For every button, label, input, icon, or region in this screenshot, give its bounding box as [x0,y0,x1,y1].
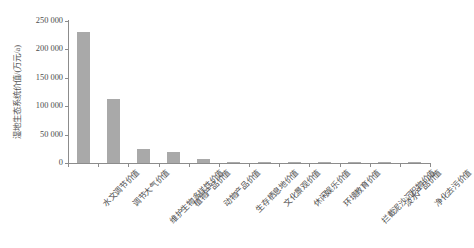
x-tick-mark [128,164,129,168]
y-tick-50000: 50 000 [0,135,68,136]
x-tick-mark [98,164,99,168]
y-tick-200000: 200 000 [0,49,68,50]
bar [227,162,240,163]
plot-area [68,21,430,163]
y-tick-label: 150 000 [36,72,63,83]
bar [197,159,210,163]
x-tick-mark [309,164,310,168]
x-tick-mark [400,164,401,168]
x-tick-mark [340,164,341,168]
y-tick-0: 0 [0,163,68,164]
x-tick-mark [159,164,160,168]
y-tick-label: 0 [59,157,63,168]
bar [107,99,120,163]
x-tick-mark [249,164,250,168]
x-tick-mark [279,164,280,168]
y-tick-250000: 250 000 [0,21,68,22]
y-axis-title: 湿地生态系统价值/(万元/a) [11,17,25,167]
y-tick-label: 100 000 [36,100,63,111]
bar [318,162,331,163]
bar [288,162,301,163]
x-tick-mark [219,164,220,168]
bar [348,162,361,163]
bar [137,149,150,163]
y-tick-100000: 100 000 [0,106,68,107]
bar [77,32,90,163]
y-tick-150000: 150 000 [0,78,68,79]
x-tick-mark [370,164,371,168]
y-tick-label: 200 000 [36,43,63,54]
x-tick-mark [430,164,431,168]
x-tick-mark-origin [68,164,69,168]
bar [378,162,391,163]
y-tick-label: 250 000 [36,15,63,26]
bar [258,162,271,163]
bar [408,162,421,163]
x-tick-mark [189,164,190,168]
y-tick-label: 50 000 [40,129,63,140]
bar [167,152,180,163]
